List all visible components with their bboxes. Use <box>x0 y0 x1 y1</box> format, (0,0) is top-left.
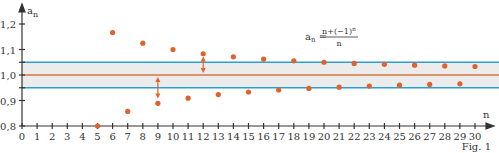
data-point <box>382 62 387 67</box>
x-tick-label: 28 <box>438 131 451 142</box>
x-tick-label: 10 <box>167 131 180 142</box>
data-point <box>246 89 251 94</box>
x-tick-label: 27 <box>423 131 436 142</box>
x-tick-label: 21 <box>333 131 346 142</box>
x-tick-label: 20 <box>318 131 331 142</box>
arrow-up-icon <box>201 57 206 62</box>
data-point <box>457 81 462 86</box>
y-tick-label: 1,1 <box>0 45 16 56</box>
formula-numerator: n+(−1)n <box>322 25 356 36</box>
data-point <box>125 109 130 114</box>
x-tick-label: 15 <box>242 131 255 142</box>
x-tick-label: 17 <box>272 131 285 142</box>
x-tick-label: 1 <box>34 131 40 142</box>
x-tick-label: 18 <box>287 131 300 142</box>
data-point <box>140 41 145 46</box>
data-point <box>261 56 266 61</box>
x-tick-label: 19 <box>303 131 316 142</box>
x-tick-label: 3 <box>64 131 70 142</box>
x-tick-label: 22 <box>348 131 361 142</box>
x-tick-label: 13 <box>212 131 225 142</box>
arrow-down-icon <box>155 94 160 99</box>
data-point <box>352 61 357 66</box>
data-point <box>170 47 175 52</box>
data-point <box>412 63 417 68</box>
data-point <box>337 85 342 90</box>
x-tick-label: 12 <box>197 131 210 142</box>
x-tick-label: 11 <box>182 131 195 142</box>
data-point <box>472 64 477 69</box>
data-point <box>155 101 160 106</box>
x-tick-label: 26 <box>408 131 421 142</box>
x-tick-label: 25 <box>393 131 406 142</box>
x-tick-label: 6 <box>109 131 115 142</box>
data-point <box>186 96 191 101</box>
y-tick-label: 1,2 <box>0 19 16 30</box>
y-axis-label: an <box>27 5 38 19</box>
x-tick-label: 16 <box>257 131 270 142</box>
data-point <box>276 87 281 92</box>
data-point <box>216 92 221 97</box>
figure-caption: Fig. 1 <box>462 141 491 152</box>
x-tick-label: 9 <box>155 131 161 142</box>
data-point <box>427 82 432 87</box>
data-point <box>201 51 206 56</box>
y-tick-label: 0,9 <box>0 96 16 107</box>
formula-denominator: n <box>336 39 341 48</box>
x-tick-label: 14 <box>227 131 240 142</box>
data-point <box>95 123 100 128</box>
data-point <box>321 60 326 65</box>
x-axis-label: n <box>483 109 490 120</box>
y-axis-arrow-icon <box>19 4 25 12</box>
x-tick-label: 4 <box>79 131 85 142</box>
x-tick-label: 24 <box>378 131 391 142</box>
y-tick-label: 0,8 <box>0 121 16 132</box>
data-point <box>306 86 311 91</box>
data-point <box>397 83 402 88</box>
data-point <box>367 83 372 88</box>
data-point <box>291 58 296 63</box>
data-point <box>110 30 115 35</box>
data-point <box>231 54 236 59</box>
y-tick-label: 1,0 <box>0 70 16 81</box>
x-tick-label: 0 <box>19 131 25 142</box>
x-tick-label: 23 <box>363 131 376 142</box>
data-point <box>442 63 447 68</box>
x-tick-label: 5 <box>94 131 100 142</box>
sequence-chart: 0123456789101112131415161718192021222324… <box>0 0 499 153</box>
x-axis-arrow-icon <box>486 123 494 129</box>
x-tick-label: 7 <box>125 131 131 142</box>
x-tick-label: 2 <box>49 131 55 142</box>
x-tick-label: 8 <box>140 131 146 142</box>
